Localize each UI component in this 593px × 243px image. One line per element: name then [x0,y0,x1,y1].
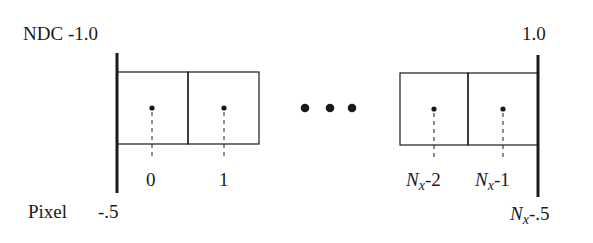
pixel-right-value: Nx-.5 [510,204,549,223]
cell-label-var: N [406,169,419,190]
pixel-axis-label: Pixel [28,202,67,221]
cell-label-0: 0 [146,170,156,189]
ellipsis-dot [326,104,335,113]
pixel-right-suffix: -.5 [529,203,550,224]
ellipsis-dot [301,104,310,113]
pixel-right-var: N [510,203,523,224]
ndc-left-value: -1.0 [68,23,98,44]
cell-label-suffix: -2 [425,169,441,190]
pixel-right-sub: x [523,212,529,227]
cell-label-1: 1 [219,170,229,189]
pixel-center-dot-nx-1 [500,106,505,111]
pixel-center-dot-0 [149,105,154,110]
cell-label-nx-1: Nx-1 [475,170,510,189]
ndc-label-text: NDC [23,23,63,44]
pixel-left-value: -.5 [98,202,119,221]
cell-label-var: N [475,169,488,190]
pixel-center-dot-1 [221,105,226,110]
cell-label-suffix: -1 [494,169,510,190]
ndc-right-value: 1.0 [522,24,546,43]
pixel-center-dot-nx-2 [431,106,436,111]
ndc-axis-label: NDC -1.0 [23,24,98,43]
cell-label-sub: x [419,178,425,193]
cell-label-nx-2: Nx-2 [406,170,441,189]
cell-label-sub: x [488,178,494,193]
ellipsis-dot [348,104,357,113]
